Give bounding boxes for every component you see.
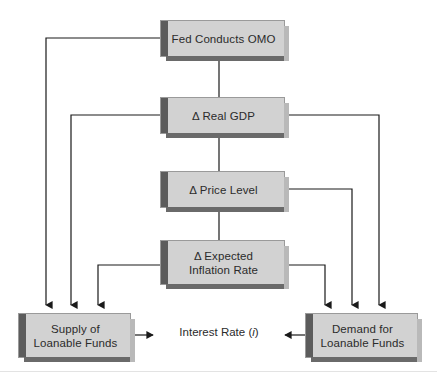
node-shadow-bottom <box>166 133 289 138</box>
node-label-demand-for-loanable-funds: Demand for Loanable Funds <box>311 322 413 350</box>
node-shadow-right <box>417 319 422 362</box>
interest-rate-prefix: Interest Rate ( <box>179 326 252 338</box>
node-supply-of-loanable-funds[interactable]: Supply of Loanable Funds <box>18 313 131 358</box>
edge-price-level-to-demand <box>285 189 352 305</box>
node-label-price-level: Δ Price Level <box>179 183 265 197</box>
node-label-fed-conducts-omo: Fed Conducts OMO <box>162 32 284 46</box>
node-real-gdp[interactable]: Δ Real GDP <box>160 97 285 134</box>
edge-expected-inflation-to-demand <box>285 265 325 305</box>
edge-real-gdp-to-supply <box>71 115 160 305</box>
node-shadow-right <box>284 177 289 212</box>
node-shadow-bottom <box>311 357 422 362</box>
node-shadow-right <box>284 246 289 289</box>
flowchart-diagram: Fed Conducts OMO Δ Real GDP Δ Price Leve… <box>0 0 437 380</box>
node-demand-for-loanable-funds[interactable]: Demand for Loanable Funds <box>305 313 418 358</box>
node-label-real-gdp: Δ Real GDP <box>182 109 263 123</box>
bottom-divider <box>0 371 437 372</box>
interest-rate-label: Interest Rate (i) <box>155 326 283 338</box>
edge-real-gdp-to-demand <box>285 115 379 305</box>
node-price-level[interactable]: Δ Price Level <box>160 171 285 208</box>
node-expected-inflation-rate[interactable]: Δ Expected Inflation Rate <box>160 240 285 285</box>
node-accent-bar <box>161 172 168 207</box>
node-shadow-right <box>284 103 289 138</box>
node-shadow-bottom <box>166 284 289 289</box>
node-shadow-right <box>284 26 289 61</box>
node-shadow-bottom <box>166 56 289 61</box>
node-fed-conducts-omo[interactable]: Fed Conducts OMO <box>160 20 285 57</box>
node-label-supply-of-loanable-funds: Supply of Loanable Funds <box>24 322 126 350</box>
interest-rate-suffix: ) <box>255 326 259 338</box>
node-shadow-bottom <box>24 357 135 362</box>
edge-expected-inflation-to-supply <box>98 265 160 305</box>
node-accent-bar <box>161 241 168 284</box>
node-shadow-right <box>130 319 135 362</box>
node-accent-bar <box>161 98 168 133</box>
node-shadow-bottom <box>166 207 289 212</box>
node-label-expected-inflation-rate: Δ Expected Inflation Rate <box>179 249 266 277</box>
